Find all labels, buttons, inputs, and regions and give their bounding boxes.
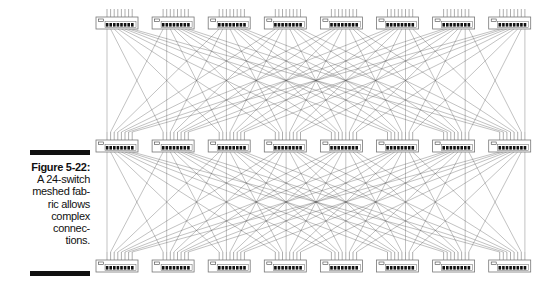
network-switch-icon bbox=[152, 252, 194, 272]
figure-label: Figure 5-22: bbox=[28, 161, 90, 173]
network-switch-icon bbox=[489, 132, 531, 152]
figure-caption: Figure 5-22: A 24-switch meshed fab- ric… bbox=[28, 150, 90, 247]
network-switch-icon bbox=[96, 252, 138, 272]
caption-top-rule bbox=[30, 150, 90, 155]
network-switch-icon bbox=[264, 252, 306, 272]
network-switch-icon bbox=[152, 132, 194, 152]
network-switch-icon bbox=[377, 252, 419, 272]
network-switch-icon bbox=[208, 132, 250, 152]
network-switch-icon bbox=[208, 9, 250, 29]
network-switch-icon bbox=[264, 9, 306, 29]
network-switch-icon bbox=[377, 9, 419, 29]
caption-line: A 24-switch bbox=[28, 173, 90, 185]
caption-bottom-rule bbox=[30, 271, 90, 276]
network-switch-icon bbox=[433, 132, 475, 152]
network-switch-icon bbox=[96, 132, 138, 152]
network-switch-icon bbox=[320, 252, 362, 272]
network-switch-icon bbox=[489, 9, 531, 29]
caption-line: ric allows bbox=[28, 198, 90, 210]
network-switch-icon bbox=[208, 252, 250, 272]
network-switch-icon bbox=[152, 9, 194, 29]
network-switch-icon bbox=[489, 252, 531, 272]
caption-line: tions. bbox=[28, 234, 90, 246]
caption-line: complex bbox=[28, 210, 90, 222]
network-switch-icon bbox=[264, 132, 306, 152]
network-switch-icon bbox=[377, 132, 419, 152]
network-switch-icon bbox=[433, 252, 475, 272]
network-switch-icon bbox=[433, 9, 475, 29]
caption-line: meshed fab- bbox=[28, 185, 90, 197]
network-switch-icon bbox=[320, 9, 362, 29]
network-switch-icon bbox=[320, 132, 362, 152]
caption-line: connec- bbox=[28, 222, 90, 234]
network-switch-icon bbox=[96, 9, 138, 29]
